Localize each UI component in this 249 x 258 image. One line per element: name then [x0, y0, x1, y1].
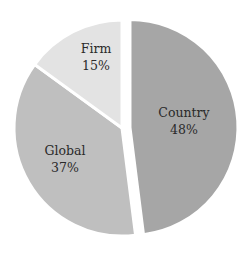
- slice-name: Global: [45, 143, 86, 158]
- slice-percent: 37%: [51, 160, 79, 175]
- slice-percent: 15%: [82, 58, 110, 73]
- slice-percent: 48%: [170, 122, 198, 137]
- pie-chart: Country 48% Global 37% Firm 15%: [0, 0, 249, 258]
- slice-name: Country: [158, 105, 210, 120]
- slice-name: Firm: [81, 41, 112, 56]
